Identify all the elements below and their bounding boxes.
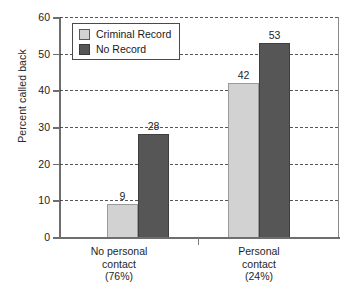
gridline-10	[60, 200, 338, 201]
y-tick-label-40: 40	[38, 84, 50, 96]
y-tick-0	[53, 237, 59, 239]
x-category-line-3: (24%)	[198, 270, 320, 283]
bar-chart: Percent called back 60 50 40 30 20 10 0 …	[0, 0, 351, 299]
gridline-30	[60, 127, 338, 128]
legend-label-criminal-record: Criminal Record	[96, 28, 171, 40]
legend-swatch-no-record-icon	[79, 44, 90, 55]
y-tick-label-60: 60	[38, 11, 50, 23]
bar-value-label: 53	[269, 29, 281, 41]
x-category-line-2: contact	[198, 258, 320, 271]
y-tick-50	[53, 54, 59, 56]
x-axis-group-separator-tick	[198, 238, 199, 245]
y-tick-10	[53, 200, 59, 202]
y-tick-label-30: 30	[38, 121, 50, 133]
y-tick-40	[53, 90, 59, 92]
legend-item-no-record: No Record	[79, 43, 171, 55]
y-tick-label-10: 10	[38, 194, 50, 206]
bar-no-personal-contact-criminal-record: 9	[107, 204, 138, 237]
y-tick-60	[53, 17, 59, 19]
legend-swatch-criminal-record-icon	[79, 29, 90, 40]
y-axis-title: Percent called back	[16, 6, 28, 186]
y-tick-label-20: 20	[38, 158, 50, 170]
y-tick-30	[53, 127, 59, 129]
y-tick-20	[53, 164, 59, 166]
bar-no-personal-contact-no-record: 28	[138, 134, 169, 237]
legend: Criminal Record No Record	[72, 23, 180, 60]
x-category-line-1: Personal	[198, 245, 320, 258]
x-category-line-3: (76%)	[58, 270, 180, 283]
bar-value-label: 28	[148, 120, 160, 132]
legend-item-criminal-record: Criminal Record	[79, 28, 171, 40]
x-category-label-personal-contact: Personal contact (24%)	[198, 245, 320, 283]
y-tick-label-50: 50	[38, 48, 50, 60]
x-category-label-no-personal-contact: No personal contact (76%)	[58, 245, 180, 283]
bar-value-label: 42	[238, 69, 250, 81]
y-tick-label-0: 0	[44, 231, 50, 243]
legend-label-no-record: No Record	[96, 43, 146, 55]
bar-personal-contact-criminal-record: 42	[228, 83, 259, 237]
bar-personal-contact-no-record: 53	[259, 43, 290, 237]
gridline-20	[60, 164, 338, 165]
x-category-line-2: contact	[58, 258, 180, 271]
gridline-40	[60, 90, 338, 91]
plot-area: 60 50 40 30 20 10 0 9 28 42 53	[59, 17, 339, 237]
gridline-60	[60, 17, 338, 18]
x-category-line-1: No personal	[58, 245, 180, 258]
bar-value-label: 9	[120, 190, 126, 202]
